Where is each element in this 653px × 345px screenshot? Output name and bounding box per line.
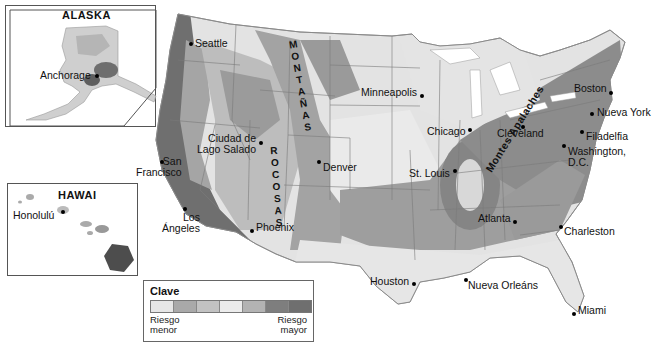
city-label-denver: Denver xyxy=(323,162,357,173)
phoenix-marker-icon xyxy=(250,229,254,233)
city-label-salt-lake: Ciudad deLago Salado xyxy=(197,133,256,155)
legend-swatch-2 xyxy=(174,301,197,312)
city-label-miami: Miami xyxy=(578,305,606,316)
legend-low-line2: menor xyxy=(150,325,180,335)
city-label-boston: Boston xyxy=(574,83,607,94)
city-label-atlanta: Atlanta xyxy=(478,213,511,224)
anchorage-marker-icon xyxy=(95,74,99,78)
alaska-inset: ALASKA Anchorage xyxy=(5,5,156,127)
new-york-marker-icon xyxy=(590,112,594,116)
legend-title: Clave xyxy=(150,285,179,297)
city-label-new-york: Nueva York xyxy=(597,107,651,118)
alaska-graphic xyxy=(6,6,157,128)
san-francisco-line2: Francisco xyxy=(136,167,182,178)
legend-swatch-7 xyxy=(289,301,311,312)
city-label-seattle: Seattle xyxy=(195,38,228,49)
los-angeles-line2: Ángeles xyxy=(162,223,200,234)
city-label-houston: Houston xyxy=(370,276,409,287)
legend-color-scale xyxy=(150,300,312,313)
city-label-new-orleans: Nueva Orleáns xyxy=(468,280,538,291)
legend-swatch-3 xyxy=(197,301,220,312)
city-label-honolulu: Honolulú xyxy=(13,210,54,221)
hawaii-inset: HAWAI Honolulú xyxy=(7,183,138,276)
atlanta-marker-icon xyxy=(513,220,517,224)
legend: Clave Riesgo menor Riesgo mayor xyxy=(143,280,314,342)
city-label-san-francisco: SanFrancisco xyxy=(136,156,182,178)
legend-high-risk-label: Riesgo mayor xyxy=(277,315,307,335)
city-label-minneapolis: Minneapolis xyxy=(361,87,417,98)
charleston-marker-icon xyxy=(559,225,563,229)
washington-line2: D.C. xyxy=(568,157,626,168)
boston-marker-icon xyxy=(609,91,613,95)
legend-swatch-1 xyxy=(151,301,174,312)
houston-marker-icon xyxy=(412,282,416,286)
city-label-philadelphia: Filadelfia xyxy=(586,131,628,142)
st-louis-marker-icon xyxy=(453,169,457,173)
city-label-washington: Washington,D.C. xyxy=(568,146,626,168)
seattle-marker-icon xyxy=(189,42,193,46)
legend-swatch-4 xyxy=(220,301,243,312)
chicago-marker-icon xyxy=(468,128,472,132)
salt-lake-line2: Lago Salado xyxy=(197,144,256,155)
washington-marker-icon xyxy=(562,144,566,148)
legend-low-risk-label: Riesgo menor xyxy=(150,315,180,335)
salt-lake-marker-icon xyxy=(259,141,263,145)
philadelphia-marker-icon xyxy=(580,130,584,134)
city-label-los-angeles: LosÁngeles xyxy=(162,212,200,234)
denver-marker-icon xyxy=(317,160,321,164)
legend-swatch-5 xyxy=(243,301,266,312)
honolulu-marker-icon xyxy=(61,210,65,214)
seismic-risk-map: ALASKA Anchorage HAWAI Honolulú Seattle … xyxy=(0,0,653,345)
city-label-anchorage: Anchorage xyxy=(40,70,91,81)
minneapolis-marker-icon xyxy=(420,94,424,98)
legend-swatch-6 xyxy=(266,301,289,312)
legend-high-line2: mayor xyxy=(277,325,307,335)
hawaii-graphic xyxy=(8,184,139,277)
city-label-chicago: Chicago xyxy=(427,126,466,137)
miami-marker-icon xyxy=(572,312,576,316)
city-label-charleston: Charleston xyxy=(564,226,615,237)
city-label-st-louis: St. Louis xyxy=(409,168,450,179)
